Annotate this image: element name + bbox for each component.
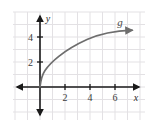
graph-figure: 2 4 6 2 4 x y g — [0, 0, 152, 129]
x-tick-label-2: 2 — [63, 92, 68, 103]
x-tick-label-4: 4 — [88, 92, 93, 103]
coordinate-plane-svg: 2 4 6 2 4 x y g — [0, 0, 152, 129]
x-tick-label-6: 6 — [113, 92, 118, 103]
y-axis-label: y — [45, 13, 51, 24]
x-axis-label: x — [133, 92, 139, 103]
y-tick-label-2: 2 — [28, 57, 33, 68]
curve-label-g: g — [117, 16, 123, 28]
y-tick-label-4: 4 — [28, 32, 33, 43]
